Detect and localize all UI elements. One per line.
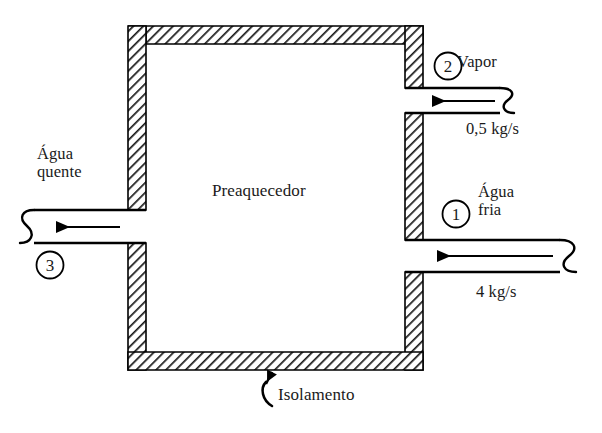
stream-3-name-line1: Água (37, 145, 82, 163)
stream-marker-2-label: 2 (444, 57, 453, 76)
pipe-stream-2-vapor (405, 88, 514, 113)
insulation-leader (263, 372, 272, 406)
pipe-1-break-symbol (560, 240, 576, 272)
insulation-leader-arrow (266, 372, 272, 384)
vessel-wall-top (128, 26, 423, 44)
stream-1-name-line1: Água (478, 183, 514, 201)
pipe-2-break-symbol (500, 88, 514, 113)
pipe-stream-1-cold-water (405, 240, 576, 272)
stream-1-name: Água fria (478, 183, 514, 220)
pipe-3-break-symbol (20, 210, 34, 243)
vessel-wall-bottom (128, 352, 423, 370)
stream-1-name-line2: fria (478, 201, 514, 219)
preheater-diagram: 2 1 3 Preaquecedor Vapor 0,5 kg/s Água f… (0, 0, 602, 433)
stream-marker-1-label: 1 (452, 205, 461, 224)
vessel-label: Preaquecedor (212, 181, 306, 200)
insulation-label: Isolamento (278, 385, 355, 404)
insulation-leader-curve (263, 382, 272, 406)
stream-2-name: Vapor (457, 53, 497, 71)
pipe-stream-3-hot-water (20, 210, 146, 243)
vessel-wall-left-upper (128, 26, 146, 210)
stream-1-flow-rate: 4 kg/s (476, 283, 516, 301)
vessel-wall-right-middle (405, 113, 423, 240)
stream-3-name-line2: quente (37, 163, 82, 181)
vessel-wall-left-lower (128, 243, 146, 370)
stream-marker-3-label: 3 (46, 256, 55, 275)
stream-2-flow-rate: 0,5 kg/s (466, 120, 519, 138)
vessel-wall-right-top (405, 26, 423, 88)
stream-3-name: Água quente (37, 145, 82, 182)
